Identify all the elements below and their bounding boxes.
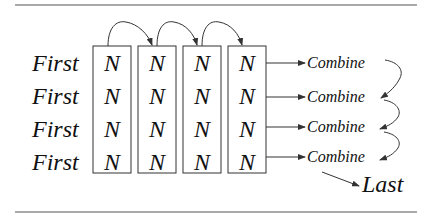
cell-r2-c1: N <box>103 83 122 109</box>
cell-r1-c1: N <box>103 50 122 76</box>
last-arrow <box>322 172 359 186</box>
combine-label-3: Combine <box>307 118 365 135</box>
last-label: Last <box>361 171 405 197</box>
cell-r2-c2: N <box>148 83 167 109</box>
cell-r4-c3: N <box>193 149 212 175</box>
combine-chain-arrow-1 <box>381 60 401 98</box>
cell-r2-c4: N <box>238 83 257 109</box>
cell-r2-c3: N <box>193 83 212 109</box>
column-chain-arrow-1 <box>108 22 152 46</box>
combine-label-4: Combine <box>307 148 365 165</box>
combine-chain-arrow-3 <box>380 132 399 160</box>
row-label-4: First <box>31 149 80 175</box>
cell-r4-c2: N <box>148 149 167 175</box>
cell-r3-c1: N <box>103 116 122 142</box>
cell-r4-c4: N <box>238 149 257 175</box>
row-label-2: First <box>31 83 80 109</box>
cell-r3-c2: N <box>148 116 167 142</box>
pipeline-diagram: First First First First N N N N N N N N … <box>0 0 432 217</box>
combine-label-1: Combine <box>307 54 365 71</box>
column-chain-arrow-3 <box>202 22 242 46</box>
cell-r1-c4: N <box>238 50 257 76</box>
cell-r3-c4: N <box>238 116 257 142</box>
combine-chain-arrow-2 <box>380 100 399 129</box>
cell-r3-c3: N <box>193 116 212 142</box>
cell-r1-c3: N <box>193 50 212 76</box>
row-label-3: First <box>31 116 80 142</box>
cell-r1-c2: N <box>148 50 167 76</box>
combine-label-2: Combine <box>307 88 365 105</box>
column-chain-arrow-2 <box>157 22 197 46</box>
row-label-1: First <box>31 50 80 76</box>
cell-r4-c1: N <box>103 149 122 175</box>
